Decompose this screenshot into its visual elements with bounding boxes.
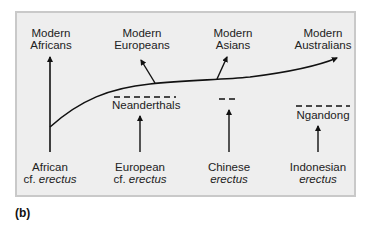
- label-line: Indonesian: [286, 161, 350, 173]
- label-ngandong: Ngandong: [296, 109, 350, 121]
- label-line: Australians: [293, 39, 353, 51]
- label-species: erectus: [39, 173, 77, 185]
- label-line: European: [110, 161, 170, 173]
- label-prefix: cf.: [113, 173, 128, 185]
- label-indonesian-erectus: Indonesian erectus: [286, 161, 350, 185]
- label-african-erectus: African cf. erectus: [20, 161, 80, 185]
- label-line: erectus: [286, 173, 350, 185]
- label-chinese-erectus: Chinese erectus: [199, 161, 259, 185]
- label-prefix: cf.: [23, 173, 38, 185]
- label-line: Chinese: [199, 161, 259, 173]
- european-branch-arrow: [141, 60, 155, 83]
- label-line: Asians: [208, 39, 258, 51]
- label-species: erectus: [210, 173, 248, 185]
- label-line: Modern: [26, 27, 76, 39]
- asian-branch-arrow: [217, 57, 227, 79]
- label-modern-asians: Modern Asians: [208, 27, 258, 51]
- label-line: Europeans: [112, 39, 172, 51]
- label-line: erectus: [199, 173, 259, 185]
- label-line: cf. erectus: [20, 173, 80, 185]
- figure-label: (b): [15, 206, 30, 220]
- label-line: African: [20, 161, 80, 173]
- label-species: erectus: [299, 173, 337, 185]
- label-european-erectus: European cf. erectus: [110, 161, 170, 185]
- label-line: Modern: [112, 27, 172, 39]
- label-line: Africans: [26, 39, 76, 51]
- label-line: cf. erectus: [110, 173, 170, 185]
- label-modern-africans: Modern Africans: [26, 27, 76, 51]
- gene-flow-curve: [50, 58, 337, 127]
- label-line: Modern: [293, 27, 353, 39]
- label-modern-europeans: Modern Europeans: [112, 27, 172, 51]
- label-line: Modern: [208, 27, 258, 39]
- label-species: erectus: [129, 173, 167, 185]
- label-neanderthals: Neanderthals: [112, 99, 178, 111]
- label-modern-australians: Modern Australians: [293, 27, 353, 51]
